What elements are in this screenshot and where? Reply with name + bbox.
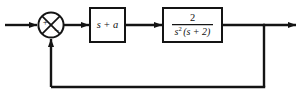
feedback-takeoff-node <box>262 23 265 26</box>
plant-block-denominator-tail: (s + 2) <box>183 26 211 38</box>
controller-block-label: s + a <box>97 19 119 30</box>
block-diagram-canvas: + − s + a 2 s2(s + 2) <box>0 0 304 99</box>
plant-block-denominator-exponent: 2 <box>178 25 181 32</box>
block-diagram: + − s + a 2 s2(s + 2) <box>0 0 304 99</box>
plant-block: 2 s2(s + 2) <box>163 8 222 42</box>
plant-block-numerator: 2 <box>190 12 195 23</box>
summing-junction-minus-sign: − <box>54 25 59 35</box>
controller-block: s + a <box>90 8 125 42</box>
feedback-path <box>51 23 266 87</box>
summing-junction-plus-sign: + <box>43 17 48 27</box>
summing-junction: + − <box>38 12 63 37</box>
